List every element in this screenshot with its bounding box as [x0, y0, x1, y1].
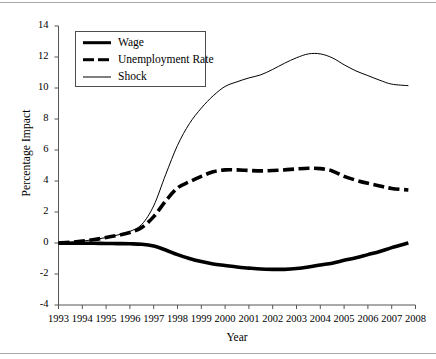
y-tick-label: -2: [23, 267, 49, 278]
legend: Wage Unemployment Rate Shock: [75, 31, 206, 87]
y-tick-label: 12: [23, 50, 49, 61]
legend-item-wage: Wage: [83, 34, 144, 51]
y-tick-label: -4: [23, 298, 49, 309]
legend-label-shock: Shock: [118, 71, 147, 83]
y-tick-label: 0: [23, 236, 49, 247]
x-tick-label: 2008: [401, 313, 431, 324]
y-axis-title: Percentage Impact: [20, 83, 32, 223]
series-line-wage: [59, 243, 409, 269]
legend-swatch-unemployment-rate-icon: [83, 54, 111, 66]
x-axis-title: Year: [58, 331, 416, 343]
series-line-unemployment-rate: [59, 168, 409, 243]
line-chart-plot: [0, 0, 436, 359]
legend-item-shock: Shock: [83, 68, 147, 85]
legend-swatch-wage-icon: [83, 37, 111, 49]
legend-label-unemployment-rate: Unemployment Rate: [118, 54, 214, 66]
legend-swatch-shock-icon: [83, 71, 111, 83]
y-tick-label: 14: [23, 19, 49, 30]
legend-label-wage: Wage: [118, 37, 144, 49]
figure: 14121086420-2-4 199319941995199619971998…: [0, 0, 436, 359]
legend-item-unemployment-rate: Unemployment Rate: [83, 51, 214, 68]
